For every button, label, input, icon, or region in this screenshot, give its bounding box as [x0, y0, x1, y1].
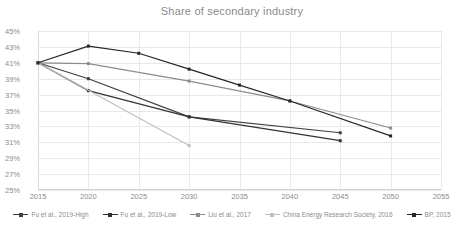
data-point-marker — [238, 84, 241, 87]
x-axis-tick-label: 2020 — [68, 192, 108, 201]
y-axis-tick-label: 37% — [0, 90, 20, 99]
chart-legend: Fu et al., 2019-HighFu et al., 2019-LowL… — [0, 211, 464, 218]
y-axis-tick-label: 41% — [0, 58, 20, 67]
chart-container: Share of secondary industry 25%27%29%31%… — [0, 0, 464, 234]
data-point-marker — [37, 61, 40, 64]
legend-item[interactable]: China Energy Research Society, 2016 — [265, 211, 393, 218]
legend-swatch-icon — [265, 211, 280, 218]
legend-label: Fu et al., 2019-High — [31, 211, 88, 218]
series-lines — [38, 31, 441, 190]
data-point-marker — [389, 126, 392, 129]
plot-area — [38, 31, 441, 190]
x-axis-tick-label: 2045 — [320, 192, 360, 201]
y-axis-tick-label: 27% — [0, 170, 20, 179]
data-point-marker — [389, 134, 392, 137]
legend-swatch-icon — [13, 211, 28, 218]
y-axis-tick-label: 29% — [0, 154, 20, 163]
legend-item[interactable]: BP, 2015 — [407, 211, 451, 218]
legend-swatch-icon — [190, 211, 205, 218]
data-point-marker — [288, 99, 291, 102]
data-point-marker — [339, 139, 342, 142]
y-axis-tick-label: 39% — [0, 74, 20, 83]
legend-swatch-icon — [103, 211, 118, 218]
data-point-marker — [188, 144, 191, 147]
gridline — [38, 190, 441, 191]
y-axis-tick-label: 25% — [0, 186, 20, 195]
x-axis-tick-label: 2030 — [169, 192, 209, 201]
data-point-marker — [87, 62, 90, 65]
data-point-marker — [339, 131, 342, 134]
series-line — [38, 63, 391, 128]
data-point-marker — [87, 45, 90, 48]
gridline — [441, 31, 442, 190]
y-axis-tick-label: 43% — [0, 42, 20, 51]
data-point-marker — [188, 80, 191, 83]
data-point-marker — [188, 115, 191, 118]
y-axis-tick-label: 33% — [0, 122, 20, 131]
x-axis-tick-label: 2035 — [220, 192, 260, 201]
x-axis-tick-label: 2050 — [371, 192, 411, 201]
y-axis-tick-label: 35% — [0, 106, 20, 115]
legend-label: Liu et al., 2017 — [208, 211, 251, 218]
legend-item[interactable]: Fu et al., 2019-High — [13, 211, 88, 218]
data-point-marker — [87, 77, 90, 80]
data-point-marker — [137, 52, 140, 55]
data-point-marker — [188, 68, 191, 71]
y-axis-tick-label: 31% — [0, 138, 20, 147]
series-line — [38, 63, 189, 146]
chart-title: Share of secondary industry — [0, 5, 464, 17]
x-axis-tick-label: 2015 — [18, 192, 58, 201]
legend-item[interactable]: Fu et al., 2019-Low — [103, 211, 177, 218]
x-axis-tick-label: 2025 — [119, 192, 159, 201]
y-axis-tick-label: 45% — [0, 27, 20, 36]
legend-label: Fu et al., 2019-Low — [121, 211, 177, 218]
legend-swatch-icon — [407, 211, 422, 218]
x-axis-tick-label: 2055 — [421, 192, 461, 201]
legend-label: China Energy Research Society, 2016 — [283, 211, 393, 218]
series-line — [38, 63, 340, 133]
x-axis-tick-label: 2040 — [270, 192, 310, 201]
legend-item[interactable]: Liu et al., 2017 — [190, 211, 251, 218]
legend-label: BP, 2015 — [425, 211, 451, 218]
